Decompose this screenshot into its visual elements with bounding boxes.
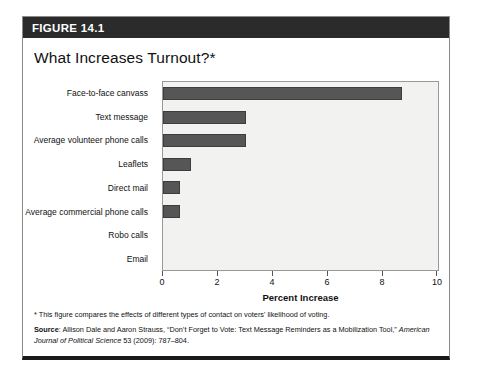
bar-row xyxy=(163,176,438,200)
x-axis-tick xyxy=(162,271,163,276)
bar-row xyxy=(163,200,438,224)
y-axis-label: Direct mail xyxy=(23,176,155,200)
bar-row xyxy=(163,153,438,177)
bar-row xyxy=(163,106,438,130)
bar-row xyxy=(163,129,438,153)
figure-note: * This figure compares the effects of di… xyxy=(34,310,442,319)
bar xyxy=(163,181,180,194)
bar xyxy=(163,111,246,124)
y-axis-label: Email xyxy=(23,247,155,271)
bar xyxy=(163,158,191,171)
bar xyxy=(163,134,246,147)
figure-number-label: FIGURE 14.1 xyxy=(32,22,104,34)
bars-layer xyxy=(163,82,438,270)
y-axis-label: Face-to-face canvass xyxy=(23,81,155,105)
bar-row xyxy=(163,247,438,271)
y-axis-label: Text message xyxy=(23,105,155,129)
bar-row xyxy=(163,82,438,106)
x-axis-tick-labels: 0246810 xyxy=(162,277,439,290)
plot-area xyxy=(162,81,439,271)
y-axis-label: Average volunteer phone calls xyxy=(23,129,155,153)
y-axis-label: Leaflets xyxy=(23,152,155,176)
x-axis-tick xyxy=(327,271,328,276)
x-axis-tick-label: 10 xyxy=(432,277,442,287)
x-axis-tick xyxy=(217,271,218,276)
x-axis-tick-label: 0 xyxy=(159,277,164,287)
source-authors-title: Allison Dale and Aaron Strauss, “Don’t F… xyxy=(62,325,398,334)
source-label: Source xyxy=(34,325,59,334)
x-axis-tick-label: 6 xyxy=(324,277,329,287)
x-axis-tick-label: 4 xyxy=(269,277,274,287)
x-axis-tick xyxy=(382,271,383,276)
x-axis-tick xyxy=(436,271,437,276)
figure-footnotes: * This figure compares the effects of di… xyxy=(34,310,442,346)
bar xyxy=(163,205,180,218)
x-axis-tick-label: 8 xyxy=(379,277,384,287)
x-axis-tick-label: 2 xyxy=(214,277,219,287)
x-axis-tick xyxy=(272,271,273,276)
x-axis-title: Percent Increase xyxy=(162,292,439,303)
y-axis-category-labels: Face-to-face canvass Text message Averag… xyxy=(23,81,155,271)
bar xyxy=(163,87,402,100)
y-axis-label: Average commercial phone calls xyxy=(23,200,155,224)
figure-source: Source: Allison Dale and Aaron Strauss, … xyxy=(34,325,442,346)
figure-title: What Increases Turnout?* xyxy=(34,49,449,67)
bar-row xyxy=(163,223,438,247)
bar-chart: Face-to-face canvass Text message Averag… xyxy=(23,73,449,305)
figure-frame: FIGURE 14.1 What Increases Turnout?* Fac… xyxy=(22,16,450,360)
y-axis-label: Robo calls xyxy=(23,224,155,248)
figure-header-bar: FIGURE 14.1 xyxy=(23,17,449,38)
source-volume-pages: 53 (2009): 787–804. xyxy=(121,336,189,345)
